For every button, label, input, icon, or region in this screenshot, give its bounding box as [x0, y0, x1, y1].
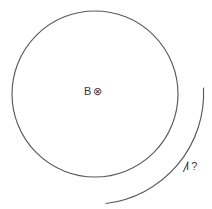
- magnetic-field-label: B ⊗: [84, 86, 102, 97]
- outer-current-arc: [106, 88, 204, 204]
- field-label-letter: B: [84, 86, 92, 97]
- into-page-cross-icon: ⊗: [93, 86, 102, 97]
- diagram-svg: [0, 0, 212, 209]
- current-unknown-marker: ?: [191, 161, 197, 172]
- current-label-letter: I: [186, 161, 189, 172]
- current-label: I ?: [186, 161, 198, 172]
- physics-diagram-canvas: B ⊗ I ?: [0, 0, 212, 209]
